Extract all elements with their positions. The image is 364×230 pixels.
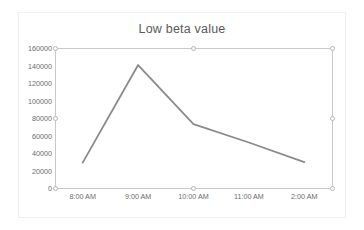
handle-middle-left[interactable]	[53, 116, 58, 121]
x-axis-tick-labels: 8:00 AM9:00 AM10:00 AM11:00 AM2:00 AM	[55, 192, 332, 206]
handle-bottom-left[interactable]	[53, 186, 58, 191]
x-tick-label: 9:00 AM	[125, 192, 151, 201]
x-tick-label: 2:00 AM	[291, 192, 317, 201]
x-tick-label: 11:00 AM	[234, 192, 264, 201]
y-tick-label: 100000	[12, 96, 52, 105]
y-tick-label: 140000	[12, 61, 52, 70]
y-tick-label: 160000	[12, 44, 52, 53]
handle-top-right[interactable]	[330, 46, 335, 51]
y-tick-label: 20000	[12, 166, 52, 175]
handle-top-left[interactable]	[53, 46, 58, 51]
handle-middle-right[interactable]	[330, 116, 335, 121]
x-tick-label: 10:00 AM	[178, 192, 208, 201]
handle-top-center[interactable]	[191, 46, 196, 51]
y-tick-label: 0	[12, 184, 52, 193]
y-tick-label: 40000	[12, 149, 52, 158]
chart-container[interactable]: Low beta value 0200004000060000800001000…	[0, 0, 364, 230]
chart-title: Low beta value	[18, 22, 346, 36]
y-tick-label: 80000	[12, 114, 52, 123]
handle-bottom-center[interactable]	[191, 186, 196, 191]
x-tick-label: 8:00 AM	[70, 192, 96, 201]
y-tick-label: 60000	[12, 131, 52, 140]
handle-bottom-right[interactable]	[330, 186, 335, 191]
y-tick-label: 120000	[12, 79, 52, 88]
y-axis-tick-labels: 0200004000060000800001000001200001400001…	[12, 48, 52, 188]
